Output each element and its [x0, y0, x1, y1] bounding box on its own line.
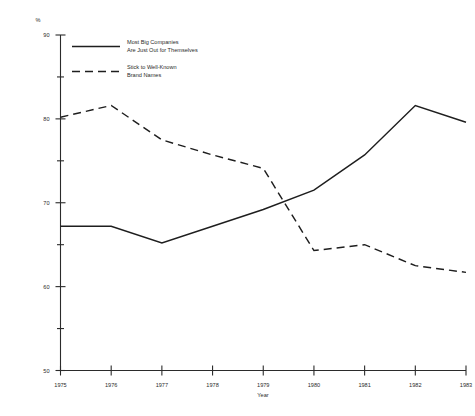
- line-chart: 5060708090 19751976197719781979198019811…: [0, 0, 475, 416]
- x-axis-ticks: 197519761977197819791980198119821983: [54, 366, 472, 388]
- legend-label-solid-line1: Most Big Companies: [127, 39, 179, 45]
- y-axis-unit-label: %: [36, 17, 41, 23]
- series-line-most-big-companies: [61, 105, 467, 243]
- x-tick-label: 1983: [460, 382, 472, 388]
- x-tick-label: 1976: [105, 382, 117, 388]
- legend-label-solid-line2: Are Just Out for Themselves: [127, 47, 198, 53]
- chart-legend: Most Big Companies Are Just Out for Them…: [72, 39, 198, 79]
- chart-container: 5060708090 19751976197719781979198019811…: [0, 0, 475, 416]
- x-axis-title: Year: [257, 392, 268, 398]
- series-group: [61, 105, 467, 272]
- x-tick-label: 1977: [156, 382, 168, 388]
- x-tick-label: 1980: [308, 382, 320, 388]
- x-tick-label: 1979: [257, 382, 269, 388]
- x-tick-label: 1975: [54, 382, 66, 388]
- y-tick-label: 50: [43, 368, 49, 374]
- series-line-stick-to-well-known-brands: [61, 105, 467, 272]
- legend-label-dashed-line2: Brand Names: [127, 72, 161, 78]
- x-tick-label: 1981: [358, 382, 370, 388]
- y-tick-label: 70: [43, 200, 49, 206]
- axes-group: [61, 35, 467, 371]
- y-tick-label: 90: [43, 32, 49, 38]
- y-tick-label: 60: [43, 284, 49, 290]
- legend-label-dashed-line1: Stick to Well-Known: [127, 64, 177, 70]
- x-tick-label: 1978: [206, 382, 218, 388]
- y-axis-ticks: 5060708090: [43, 32, 65, 374]
- y-tick-label: 80: [43, 116, 49, 122]
- x-tick-label: 1982: [409, 382, 421, 388]
